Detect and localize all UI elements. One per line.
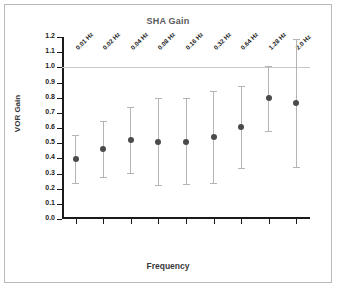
x-axis-tick-label: 1.28 Hz — [267, 31, 287, 51]
x-axis-tick — [131, 219, 132, 224]
y-axis-tick-label: 0.0 — [45, 214, 55, 221]
error-bar-cap-lower — [100, 177, 107, 178]
error-bar-cap-upper — [293, 39, 300, 40]
data-point-marker — [183, 139, 189, 145]
y-axis-tick: 0.4 — [57, 158, 62, 159]
y-axis-tick-label: 1.2 — [45, 32, 55, 39]
error-bar-cap-lower — [210, 183, 217, 184]
y-axis-tick: 1.1 — [57, 52, 62, 53]
data-point-marker — [73, 156, 79, 162]
x-axis-tick-label: 0.32 Hz — [212, 31, 232, 51]
y-axis-tick: 0.7 — [57, 113, 62, 114]
y-axis-tick-label: 0.2 — [45, 184, 55, 191]
error-bar-cap-upper — [100, 121, 107, 122]
data-point-marker — [293, 100, 299, 106]
x-axis-tick-label: 0.64 Hz — [239, 31, 259, 51]
y-axis-tick-label: 0.9 — [45, 78, 55, 85]
plot-area: 0.00.10.20.30.40.50.60.70.80.91.01.11.2 … — [62, 37, 310, 219]
error-bar-cap-lower — [293, 167, 300, 168]
y-axis-tick-label: 0.5 — [45, 138, 55, 145]
error-bar-cap-upper — [210, 91, 217, 92]
data-point-marker — [238, 124, 244, 130]
data-point-marker — [266, 95, 272, 101]
error-bar-cap-upper — [265, 66, 272, 67]
y-axis-line — [62, 37, 64, 219]
y-axis-tick: 0.8 — [57, 98, 62, 99]
y-axis-tick-label: 0.6 — [45, 123, 55, 130]
x-axis-tick — [76, 219, 77, 224]
y-axis-tick: 0.9 — [57, 83, 62, 84]
x-axis-tick-label: 0.08 Hz — [156, 31, 176, 51]
error-bar-cap-lower — [183, 184, 190, 185]
y-axis-tick-label: 0.3 — [45, 169, 55, 176]
y-axis-tick: 0.3 — [57, 174, 62, 175]
error-bar-cap-upper — [72, 135, 79, 136]
x-axis-tick — [214, 219, 215, 224]
x-axis-tick-label: 0.01 Hz — [74, 31, 94, 51]
chart-title: SHA Gain — [5, 16, 331, 26]
x-axis-tick-label: 0.04 Hz — [129, 31, 149, 51]
y-axis-tick-label: 1.0 — [45, 62, 55, 69]
x-axis-tick — [186, 219, 187, 224]
x-axis-tick — [241, 219, 242, 224]
y-axis-tick: 0.0 — [57, 219, 62, 220]
data-point-marker — [100, 146, 106, 152]
y-axis-tick-label: 1.1 — [45, 47, 55, 54]
error-bar-cap-lower — [72, 183, 79, 184]
error-bar-cap-upper — [155, 98, 162, 99]
x-axis-tick — [296, 219, 297, 224]
chart-figure-frame: SHA Gain VOR Gain 0.00.10.20.30.40.50.60… — [4, 4, 332, 283]
x-axis-tick-label: 2.0 Hz — [294, 33, 312, 51]
error-bar-cap-upper — [238, 86, 245, 87]
y-axis-tick: 0.5 — [57, 143, 62, 144]
y-axis-tick: 1.0 — [57, 67, 62, 68]
error-bar-cap-upper — [183, 98, 190, 99]
x-axis-tick — [103, 219, 104, 224]
y-axis-tick-label: 0.8 — [45, 93, 55, 100]
x-axis-tick-label: 0.16 Hz — [184, 31, 204, 51]
y-axis-tick-label: 0.7 — [45, 108, 55, 115]
data-point-marker — [128, 137, 134, 143]
y-axis-title: VOR Gain — [13, 84, 22, 144]
reference-line-at-one — [62, 67, 310, 68]
error-bar-cap-lower — [127, 173, 134, 174]
y-axis-tick: 0.6 — [57, 128, 62, 129]
error-bar-cap-lower — [265, 131, 272, 132]
x-axis-tick — [269, 219, 270, 224]
y-axis-tick: 0.1 — [57, 204, 62, 205]
x-axis-title: Frequency — [5, 261, 331, 271]
data-point-marker — [211, 134, 217, 140]
error-bar-cap-lower — [155, 185, 162, 186]
error-bar-cap-lower — [238, 168, 245, 169]
x-axis-tick — [158, 219, 159, 224]
error-bar-cap-upper — [127, 107, 134, 108]
data-point-marker — [155, 139, 161, 145]
y-axis-tick-label: 0.1 — [45, 199, 55, 206]
y-axis-tick: 1.2 — [57, 37, 62, 38]
y-axis-tick: 0.2 — [57, 189, 62, 190]
y-axis-tick-label: 0.4 — [45, 153, 55, 160]
x-axis-tick-label: 0.02 Hz — [101, 31, 121, 51]
